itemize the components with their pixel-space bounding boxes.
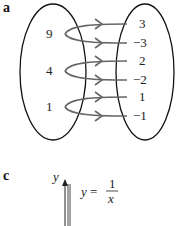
equation-denominator: x bbox=[107, 191, 114, 206]
y-axis bbox=[62, 179, 68, 226]
domain-value: 1 bbox=[46, 99, 53, 114]
y-axis-label: y bbox=[51, 169, 59, 184]
equation-numerator: 1 bbox=[109, 176, 116, 191]
range-value: −1 bbox=[133, 108, 147, 123]
domain-value: 9 bbox=[46, 26, 53, 41]
domain-value: 4 bbox=[46, 63, 53, 78]
range-value: 2 bbox=[139, 53, 146, 68]
part-c-label: c bbox=[3, 168, 9, 184]
range-value: −3 bbox=[133, 35, 147, 50]
range-value: 1 bbox=[139, 89, 146, 104]
equation-lhs: y = bbox=[79, 184, 97, 199]
mapping-arrows bbox=[65, 19, 127, 121]
domain-ellipse bbox=[20, 4, 86, 140]
range-value: −2 bbox=[133, 72, 147, 87]
range-value: 3 bbox=[139, 16, 146, 31]
mapping-diagram: 9 4 1 3 −3 2 −2 1 −1 y y = 1 x bbox=[0, 0, 182, 226]
